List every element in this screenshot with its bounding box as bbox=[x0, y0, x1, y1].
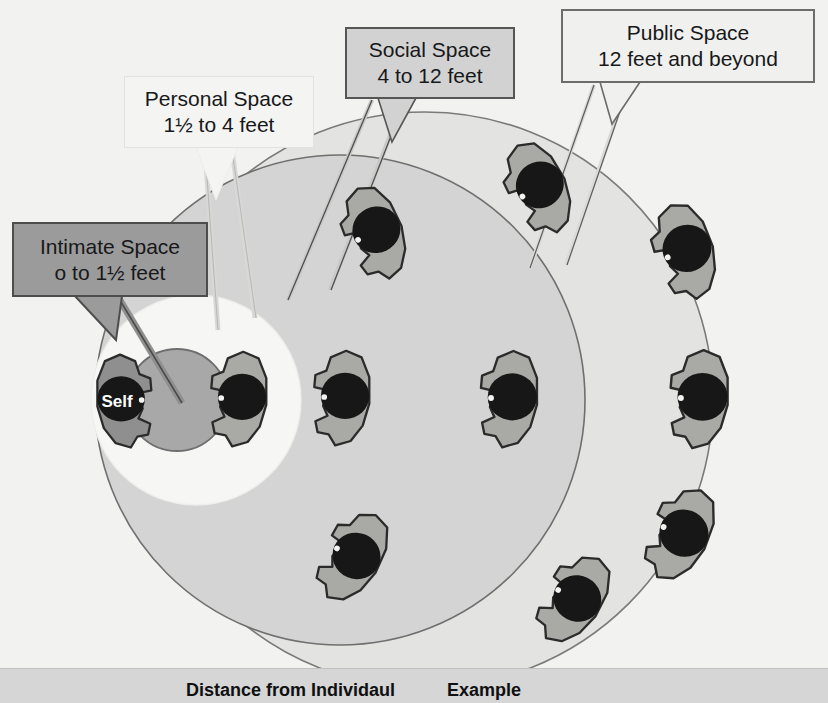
personal-space-diagram-page: Self bbox=[0, 0, 828, 703]
callout-personal-space: Personal Space 1½ to 4 feet bbox=[124, 76, 314, 148]
self-label: Self bbox=[101, 392, 133, 411]
callout-social-space: Social Space 4 to 12 feet bbox=[345, 27, 515, 99]
table-header-band: Distance from Individaul Example bbox=[0, 668, 828, 703]
table-header-example: Example bbox=[447, 680, 521, 701]
callout-public-space: Public Space 12 feet and beyond bbox=[561, 9, 815, 83]
table-header-row: Distance from Individaul Example bbox=[0, 669, 828, 703]
callout-intimate-space: Intimate Space o to 1½ feet bbox=[12, 222, 208, 297]
table-header-distance: Distance from Individaul bbox=[186, 680, 395, 701]
